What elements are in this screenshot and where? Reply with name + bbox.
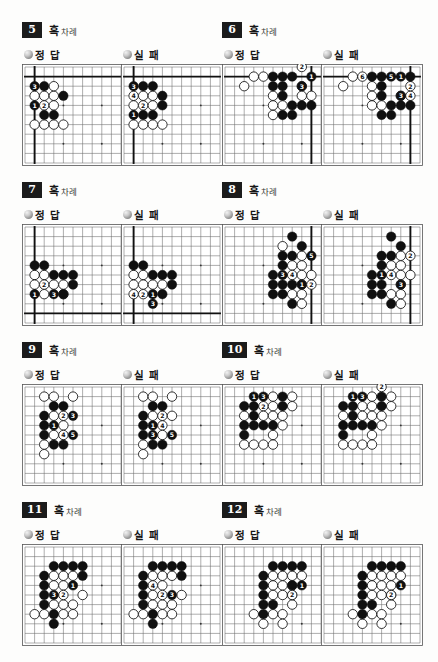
black-stone: 1	[249, 392, 258, 401]
move-number: 4	[160, 422, 165, 429]
white-stone	[39, 120, 48, 129]
white-stone: 4	[287, 270, 296, 279]
move-number: 2	[389, 591, 393, 598]
stone-bullet-icon	[224, 210, 233, 219]
failure-label: 실 패	[334, 47, 359, 62]
black-stone	[78, 571, 87, 580]
black-stone	[268, 561, 277, 570]
black-stone	[297, 101, 306, 110]
black-stone	[49, 609, 58, 618]
black-stone	[148, 619, 157, 628]
black-stone	[377, 81, 386, 90]
black-stone	[148, 561, 157, 570]
black-stone	[287, 561, 296, 570]
white-stone	[348, 72, 357, 81]
turn-sub: 차례	[261, 27, 277, 37]
problem-header: 9흑차례	[22, 342, 77, 358]
white-stone	[396, 270, 405, 279]
black-stone	[177, 561, 186, 570]
black-stone	[386, 101, 395, 110]
answer-label: 정 답	[235, 527, 260, 542]
black-stone	[68, 280, 77, 289]
answer-board: 12	[222, 544, 324, 646]
white-stone	[259, 440, 268, 449]
black-stone: 1	[30, 101, 39, 110]
white-stone	[278, 619, 287, 628]
white-stone	[278, 590, 287, 599]
white-stone: 2	[386, 590, 395, 599]
white-stone	[367, 91, 376, 100]
black-stone	[278, 251, 287, 260]
black-stone	[338, 401, 347, 410]
black-stone	[148, 440, 157, 449]
answer-label-group: 정 답	[224, 47, 260, 62]
black-stone	[338, 421, 347, 430]
problem-number-badge: 11	[22, 502, 47, 518]
white-stone	[129, 609, 138, 618]
black-stone	[158, 101, 167, 110]
move-number: 3	[52, 291, 56, 298]
turn-main: 흑	[54, 505, 64, 518]
move-number: 3	[32, 83, 36, 90]
turn-label: 흑차례	[49, 182, 77, 198]
white-stone	[386, 392, 395, 401]
problem-number-badge: 9	[22, 342, 42, 358]
white-stone: 2	[377, 384, 386, 392]
white-stone	[377, 421, 386, 430]
turn-sub: 차례	[61, 187, 77, 197]
white-stone: 4	[129, 289, 138, 298]
black-stone	[287, 72, 296, 81]
black-stone	[239, 430, 248, 439]
failure-board-grid: 24153	[121, 384, 223, 486]
black-stone: 1	[148, 289, 157, 298]
white-stone: 2	[406, 251, 415, 260]
answer-label-group: 정 답	[24, 47, 60, 62]
answer-board: 24135	[22, 384, 124, 486]
diagram-labels: 정 답실 패	[222, 527, 422, 541]
white-stone	[307, 91, 316, 100]
black-stone	[59, 561, 68, 570]
turn-sub: 차례	[66, 507, 82, 517]
white-stone	[268, 571, 277, 580]
failure-label-group: 실 패	[323, 527, 359, 542]
black-stone	[377, 72, 386, 81]
failure-board: 132	[321, 384, 423, 486]
white-stone	[386, 581, 395, 590]
white-stone	[129, 101, 138, 110]
white-stone	[239, 411, 248, 420]
white-stone	[358, 401, 367, 410]
black-stone	[167, 270, 176, 279]
white-stone	[367, 81, 376, 90]
white-stone	[287, 289, 296, 298]
white-stone	[358, 619, 367, 628]
move-number: 3	[52, 591, 56, 598]
black-stone	[396, 241, 405, 250]
white-stone	[259, 619, 268, 628]
white-stone	[377, 101, 386, 110]
black-stone	[158, 401, 167, 410]
white-stone	[367, 411, 376, 420]
failure-label: 실 패	[334, 527, 359, 542]
white-stone: 4	[406, 91, 415, 100]
white-stone: 6	[358, 72, 367, 81]
white-stone: 4	[148, 581, 157, 590]
failure-board: 4213	[321, 224, 423, 326]
turn-main: 흑	[49, 345, 59, 358]
white-stone	[239, 81, 248, 90]
move-number: 2	[160, 591, 164, 598]
white-stone	[68, 609, 77, 618]
white-stone	[297, 91, 306, 100]
answer-board-grid: 231	[22, 64, 124, 166]
move-number: 3	[300, 83, 304, 90]
move-number: 5	[170, 431, 174, 438]
white-stone	[367, 401, 376, 410]
black-stone: 3	[148, 430, 157, 439]
black-stone	[249, 411, 258, 420]
stone-bullet-icon	[224, 370, 233, 379]
stone-bullet-icon	[323, 210, 332, 219]
move-number: 1	[252, 393, 256, 400]
failure-board-grid: 4213	[321, 224, 423, 326]
white-stone	[268, 590, 277, 599]
problem-header: 8흑차례	[222, 182, 277, 198]
move-number: 2	[300, 64, 304, 70]
